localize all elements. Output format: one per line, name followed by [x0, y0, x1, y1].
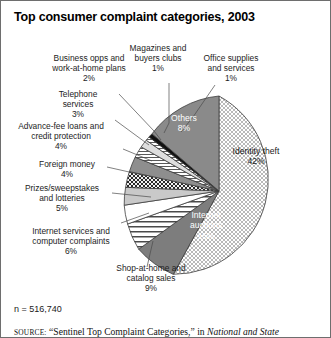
- source-connector: in: [197, 326, 204, 337]
- label-identity-theft: Identity theft 42%: [216, 146, 296, 167]
- label-foreign-money: Foreign money 4%: [29, 159, 105, 179]
- label-internet-auctions: Internet auctions 15%: [175, 210, 237, 241]
- label-others: Others 8%: [161, 113, 207, 134]
- sample-size-note: n = 516,740: [14, 304, 62, 314]
- source-label: SOURCE:: [14, 328, 47, 337]
- pie-chart: Business opps and work-at-home plans 2% …: [1, 1, 331, 338]
- figure-container: Top consumer complaint categories, 2003: [0, 0, 331, 338]
- source-quoted-title: “Sentinel Top Complaint Categories,”: [49, 326, 195, 337]
- label-magazines: Magazines and buyers clubs 1%: [119, 43, 197, 74]
- label-office-supplies: Office supplies and services 1%: [189, 53, 273, 84]
- label-internet-services: Internet services and computer complaint…: [23, 226, 119, 257]
- source-note: SOURCE: “Sentinel Top Complaint Categori…: [14, 326, 279, 337]
- source-publication: National and State: [207, 326, 279, 337]
- label-advance-fee-loans: Advance-fee loans and credit protection …: [5, 121, 117, 152]
- leader-telephone: [115, 120, 149, 145]
- label-shop-at-home: Shop-at-home and catalog sales 9%: [109, 263, 193, 294]
- label-prizes-sweepstakes: Prizes/sweepstakes and lotteries 5%: [14, 183, 110, 214]
- label-telephone-services: Telephone services 3%: [45, 89, 111, 120]
